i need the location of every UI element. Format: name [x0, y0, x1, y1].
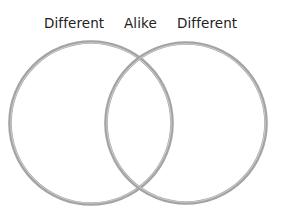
right-circle [106, 43, 266, 203]
left-circle [10, 42, 172, 204]
venn-circles [0, 0, 288, 222]
